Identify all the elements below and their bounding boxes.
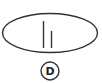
ellipse-shape	[3, 14, 98, 53]
diagram-canvas: D	[0, 0, 102, 83]
option-label: D	[45, 65, 54, 78]
